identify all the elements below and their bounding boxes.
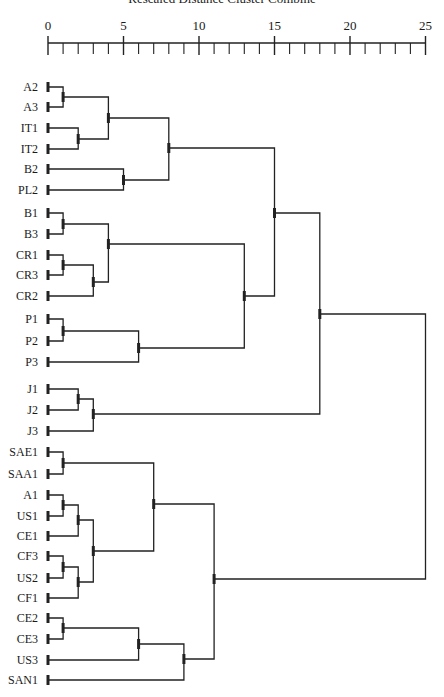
branch <box>93 504 153 551</box>
branch <box>108 118 168 148</box>
leaf-label: B2 <box>24 162 38 176</box>
branch <box>78 551 93 582</box>
leaf-label: B1 <box>24 206 38 220</box>
branch <box>48 399 78 410</box>
tick-label: 0 <box>45 18 52 33</box>
distance-axis: 0510152025 <box>45 18 432 55</box>
leaf-label: P2 <box>25 334 38 348</box>
leaf-label: SAN1 <box>8 673 38 687</box>
branch <box>48 224 63 234</box>
branch <box>48 331 63 341</box>
branch <box>48 618 63 628</box>
branch <box>108 244 244 296</box>
branch <box>184 579 214 659</box>
branch <box>48 644 139 660</box>
branch <box>320 314 426 447</box>
leaf-label: CR3 <box>16 268 38 282</box>
branch <box>48 567 63 578</box>
branch <box>48 556 63 567</box>
tick-label: 15 <box>268 18 281 33</box>
branch <box>124 148 169 180</box>
tick-label: 5 <box>120 18 127 33</box>
branch <box>63 331 139 348</box>
branch <box>48 659 184 680</box>
leaf-label: A2 <box>23 80 38 94</box>
leaf-label: US2 <box>17 571 38 585</box>
branch <box>48 87 63 97</box>
leaf-label: J3 <box>27 424 38 438</box>
leaf-label: CE1 <box>17 529 38 543</box>
branch <box>48 452 63 463</box>
branch <box>154 504 214 579</box>
leaf-label: P3 <box>25 355 38 369</box>
branch <box>78 118 108 139</box>
leaf-label: B3 <box>24 227 38 241</box>
leaf-label: J2 <box>27 403 38 417</box>
leaf-label: SAA1 <box>8 467 38 481</box>
branch <box>48 282 93 296</box>
branch <box>78 520 93 551</box>
tick-label: 10 <box>193 18 206 33</box>
branch <box>63 567 78 582</box>
branch <box>48 495 63 505</box>
leaf-label: CE2 <box>17 611 38 625</box>
leaf-label: IT2 <box>21 142 38 156</box>
leaf-label: CR2 <box>16 289 38 303</box>
branch <box>139 296 245 348</box>
leaf-label: A1 <box>23 488 38 502</box>
leaf-labels: A2A3IT1IT2B2PL2B1B3CR1CR3CR2P1P2P3J1J2J3… <box>8 80 50 687</box>
branch <box>48 213 63 224</box>
branch <box>214 447 425 579</box>
dendrogram-tree <box>48 87 426 680</box>
branch <box>78 399 93 414</box>
branch <box>63 224 108 244</box>
branch <box>48 180 124 190</box>
branch <box>93 314 319 414</box>
leaf-label: SAE1 <box>9 445 38 459</box>
branch <box>48 255 63 265</box>
branch <box>93 244 108 282</box>
branch <box>48 265 63 275</box>
branch <box>63 97 108 118</box>
branch <box>63 265 93 282</box>
branch <box>48 348 139 362</box>
branch <box>63 463 154 504</box>
leaf-label: CF3 <box>17 549 38 563</box>
branch <box>139 644 184 659</box>
leaf-label: J1 <box>27 382 38 396</box>
leaf-label: A3 <box>23 100 38 114</box>
leaf-label: CE3 <box>17 632 38 646</box>
branch <box>63 628 139 644</box>
dendrogram-chart: 0510152025 A2A3IT1IT2B2PL2B1B3CR1CR3CR2P… <box>0 0 444 697</box>
branch <box>275 213 320 314</box>
tick-label: 25 <box>419 18 432 33</box>
leaf-label: CR1 <box>16 248 38 262</box>
branch <box>48 414 93 431</box>
leaf-label: US1 <box>17 509 38 523</box>
branch <box>48 169 124 180</box>
tick-label: 20 <box>344 18 357 33</box>
leaf-label: IT1 <box>21 121 38 135</box>
branch <box>63 505 78 520</box>
branch <box>48 128 78 139</box>
leaf-label: CF1 <box>17 591 38 605</box>
branch <box>48 582 78 598</box>
leaf-label: P1 <box>25 312 38 326</box>
branch <box>48 520 78 536</box>
branch <box>48 139 78 149</box>
branch <box>48 628 63 639</box>
branch <box>48 319 63 331</box>
branch <box>48 97 63 107</box>
leaf-label: PL2 <box>18 183 38 197</box>
branch <box>48 505 63 516</box>
branch <box>169 148 275 213</box>
leaf-label: US3 <box>17 653 38 667</box>
branch <box>48 463 63 474</box>
branch <box>48 389 78 399</box>
branch <box>244 213 274 296</box>
